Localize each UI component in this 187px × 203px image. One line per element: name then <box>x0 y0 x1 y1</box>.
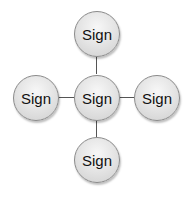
connector-left <box>59 97 74 98</box>
node-label: Sign <box>82 26 112 43</box>
node-bottom: Sign <box>74 137 120 183</box>
node-label: Sign <box>142 90 172 107</box>
node-label: Sign <box>21 90 51 107</box>
node-right: Sign <box>134 75 180 121</box>
connector-bottom <box>96 120 97 137</box>
connector-top <box>96 57 97 74</box>
node-label: Sign <box>82 152 112 169</box>
node-left: Sign <box>13 75 59 121</box>
node-center: Sign <box>74 75 120 121</box>
node-top: Sign <box>74 11 120 57</box>
node-label: Sign <box>82 90 112 107</box>
connector-right <box>119 97 134 98</box>
